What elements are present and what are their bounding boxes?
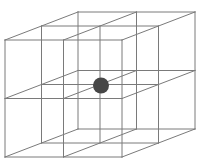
lattice-diagram — [0, 0, 198, 160]
cube-lattice-figure — [0, 0, 198, 160]
center-atom-dot — [93, 78, 109, 94]
